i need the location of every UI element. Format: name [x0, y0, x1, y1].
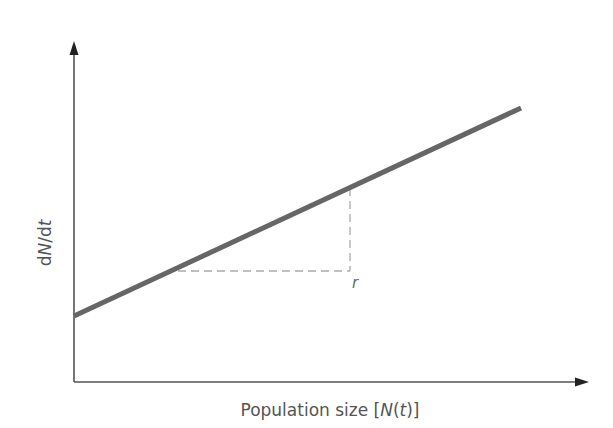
- data-line: [74, 108, 521, 316]
- slope-label: r: [352, 274, 359, 292]
- x-axis-arrow-icon: [575, 378, 589, 387]
- x-axis: [74, 378, 589, 387]
- y-axis: [70, 41, 79, 382]
- x-axis-label: Population size [N(t)]: [240, 400, 419, 420]
- y-axis-arrow-icon: [70, 41, 79, 55]
- y-axis-label: dN/dt: [35, 218, 55, 266]
- diagram: r dN/dt Population size [N(t)]: [0, 0, 613, 428]
